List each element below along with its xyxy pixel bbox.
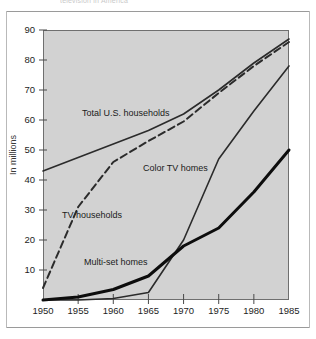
x-tick-1960: 1960 xyxy=(96,306,130,316)
series-label-color-tv-homes: Color TV homes xyxy=(143,163,208,173)
x-tick-1950: 1950 xyxy=(26,306,60,316)
x-tick-1965: 1965 xyxy=(131,306,165,316)
y-tick-80: 80 xyxy=(9,55,35,64)
figure: television in America In millions 102030… xyxy=(0,0,316,339)
series-label-multi-set-homes: Multi-set homes xyxy=(84,257,148,267)
y-tick-60: 60 xyxy=(9,115,35,124)
y-tick-20: 20 xyxy=(9,235,35,244)
y-tick-90: 90 xyxy=(9,25,35,34)
y-tick-10: 10 xyxy=(9,265,35,274)
y-tick-70: 70 xyxy=(9,85,35,94)
x-tick-1980: 1980 xyxy=(237,306,271,316)
series-label-tv-households: TV households xyxy=(62,210,122,220)
series-label-total-us-households: Total U.S. households xyxy=(82,108,170,118)
x-tick-1975: 1975 xyxy=(202,306,236,316)
x-tick-1970: 1970 xyxy=(167,306,201,316)
y-tick-40: 40 xyxy=(9,175,35,184)
chart: In millions 102030405060708090 195019551… xyxy=(0,0,316,339)
x-tick-1955: 1955 xyxy=(61,306,95,316)
y-tick-30: 30 xyxy=(9,205,35,214)
series-line-color-tv-homes xyxy=(43,66,289,300)
series-line-total-u-s-households xyxy=(43,39,289,171)
y-tick-50: 50 xyxy=(9,145,35,154)
x-tick-1985: 1985 xyxy=(272,306,306,316)
